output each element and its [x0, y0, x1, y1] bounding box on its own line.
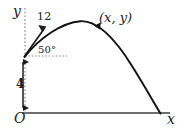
x-axis-label: x — [167, 112, 175, 126]
origin-label: O — [14, 111, 25, 125]
figure-canvas — [0, 0, 185, 129]
trajectory-curve — [25, 21, 161, 113]
position-point-label: (x, y) — [99, 11, 132, 24]
initial-height-label: 4 — [16, 78, 24, 90]
initial-speed-label: 12 — [37, 11, 51, 22]
launch-angle-label: 50° — [38, 45, 56, 55]
y-axis-label: y — [13, 4, 21, 18]
projectile-motion-figure: y x O 12 50° 4 (x, y) — [0, 0, 185, 129]
